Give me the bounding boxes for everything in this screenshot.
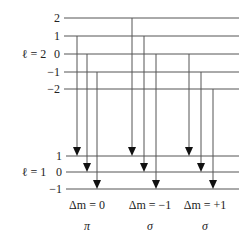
arrow-head-icon (128, 147, 136, 156)
arrow-head-icon (197, 163, 205, 172)
zeeman-transition-diagram: 210−1−2 10−1 Δm = 0πΔm = −1σΔm = +1σ ℓ =… (0, 0, 250, 242)
upper-levels-l2: 210−1−2 (47, 11, 239, 96)
delta-m-label: Δm = 0 (69, 198, 105, 212)
arrow-head-icon (209, 180, 217, 189)
upper-l-label: ℓ = 2 (22, 47, 47, 61)
delta-m-label: Δm = +1 (184, 198, 227, 212)
arrow-head-icon (83, 163, 91, 172)
lower-l-label: ℓ = 1 (22, 165, 47, 179)
lower-m-label: 0 (56, 165, 62, 179)
upper-m-label: 2 (54, 11, 60, 25)
arrow-head-icon (152, 180, 160, 189)
transition-group-labels: Δm = 0πΔm = −1σΔm = +1σ (69, 198, 226, 233)
polarization-label: σ (202, 219, 209, 233)
arrow-head-icon (185, 147, 193, 156)
arrow-head-icon (73, 147, 81, 156)
delta-m-label: Δm = −1 (129, 198, 172, 212)
upper-m-label: −2 (47, 82, 60, 96)
transition-arrows (73, 18, 217, 189)
arrow-head-icon (140, 163, 148, 172)
upper-m-label: 0 (54, 47, 60, 61)
lower-m-label: −1 (49, 182, 62, 196)
arrow-head-icon (93, 180, 101, 189)
polarization-label: π (84, 219, 91, 233)
lower-m-label: 1 (56, 149, 62, 163)
upper-m-label: −1 (47, 65, 60, 79)
upper-m-label: 1 (54, 29, 60, 43)
polarization-label: σ (147, 219, 154, 233)
